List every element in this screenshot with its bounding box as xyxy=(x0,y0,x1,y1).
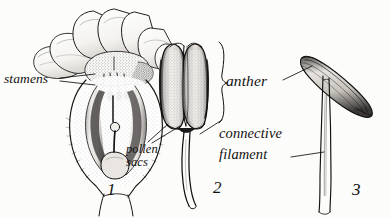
label-filament: filament xyxy=(219,147,267,162)
figure-number-1: 1 xyxy=(107,180,116,200)
plate-drawing xyxy=(0,0,390,218)
label-connective: connective xyxy=(219,126,282,141)
label-pollen-sacs-line2: sacs xyxy=(126,155,148,169)
botanical-plate: stamens pollensacs anther connective fil… xyxy=(0,0,390,218)
label-anther: anther xyxy=(226,73,267,89)
figure-number-2: 2 xyxy=(213,178,222,198)
figure-number-3: 3 xyxy=(352,180,361,200)
label-stamens: stamens xyxy=(4,72,48,86)
label-pollen-sacs: pollensacs xyxy=(126,143,158,168)
